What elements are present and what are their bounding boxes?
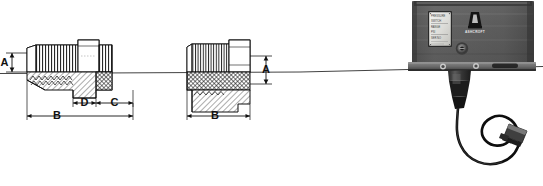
svg-text:RANGE: RANGE	[431, 25, 440, 29]
device-nameplate: PRESSURE SWITCH RANGE PSI SER NO	[428, 11, 452, 47]
dimension-label-a-right: A	[262, 63, 270, 75]
left-fitting-cross-section	[27, 40, 112, 98]
svg-text:PRESSURE: PRESSURE	[431, 14, 446, 18]
right-fitting-cross-section	[187, 40, 250, 112]
adjustment-screw[interactable]	[456, 42, 468, 54]
pressure-switch-device: PRESSURE SWITCH RANGE PSI SER NO	[408, 1, 536, 109]
figure-canvas: A D C B	[0, 0, 543, 186]
dimension-label-c: C	[111, 96, 119, 108]
dimension-label-b-right: B	[211, 109, 219, 121]
svg-text:PSI: PSI	[431, 30, 435, 34]
dimension-label-d: D	[81, 96, 89, 108]
brand-logo-text: ASHCROFT	[465, 30, 485, 34]
process-port	[448, 70, 471, 109]
dimension-a-right: A	[250, 56, 272, 84]
device-base-flange	[408, 62, 536, 71]
dimension-label-a-left: A	[1, 56, 9, 68]
dimension-a-left: A	[1, 53, 27, 72]
dimension-label-b-left: B	[53, 109, 61, 121]
svg-text:SER NO: SER NO	[431, 36, 441, 40]
dimension-c: C	[96, 90, 133, 108]
svg-text:SWITCH: SWITCH	[431, 19, 441, 23]
technical-drawing-svg: A D C B	[0, 0, 543, 186]
